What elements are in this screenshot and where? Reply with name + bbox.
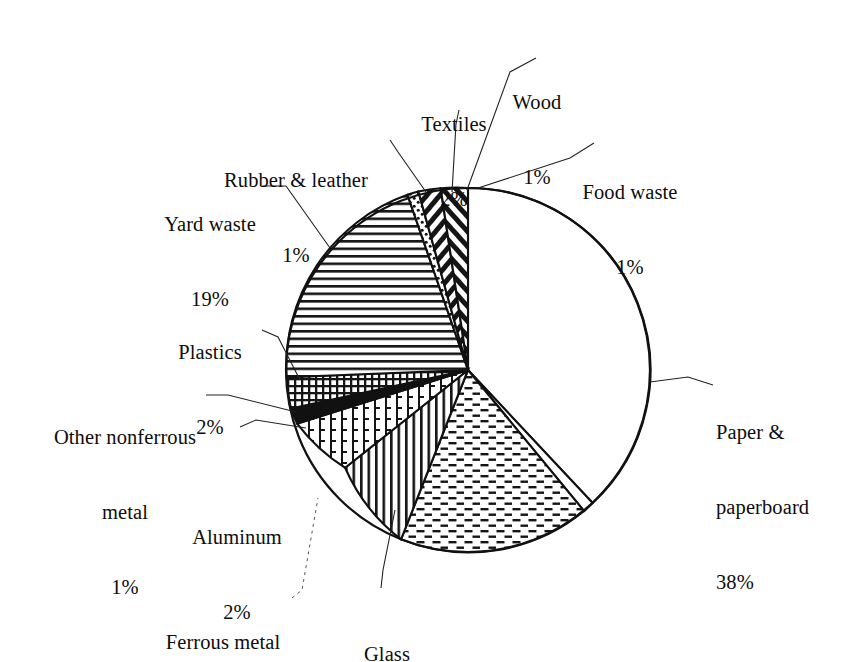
- label-other-nonferrous-metal-name-line1: Other nonferrous: [40, 425, 210, 450]
- label-paper-paperboard-name-line2: paperboard: [716, 495, 859, 520]
- label-glass: Glass 5%: [342, 592, 432, 662]
- label-food-waste-name: Food waste: [560, 180, 700, 205]
- label-textiles: Textiles 2%: [404, 62, 504, 262]
- label-yard-waste-name: Yard waste: [140, 212, 280, 237]
- label-wood-name: Wood: [497, 90, 577, 115]
- label-aluminum-name: Aluminum: [172, 525, 302, 550]
- label-ferrous-metal-name: Ferrous metal: [148, 630, 298, 655]
- label-food-waste: Food waste 1%: [560, 130, 700, 330]
- leader-line-paper-paperboard: [650, 377, 713, 385]
- label-ferrous-metal: Ferrous metal 8%: [148, 580, 298, 662]
- label-glass-name: Glass: [342, 642, 432, 662]
- label-paper-paperboard-percent: 38%: [716, 570, 859, 595]
- label-plastics-name: Plastics: [155, 340, 265, 365]
- label-paper-paperboard: Paper & paperboard 38%: [716, 370, 859, 645]
- label-textiles-percent: 2%: [404, 187, 504, 212]
- pie-chart: Wood 1% Textiles 2% Rubber & leather 1% …: [0, 0, 859, 662]
- label-paper-paperboard-name-line1: Paper &: [716, 420, 859, 445]
- label-food-waste-percent: 1%: [560, 255, 700, 280]
- label-textiles-name: Textiles: [404, 112, 504, 137]
